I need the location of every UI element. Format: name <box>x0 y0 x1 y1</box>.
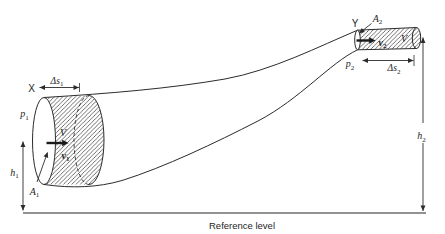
narrow-pipe-hatched-body <box>358 28 421 50</box>
x-section-label: X <box>28 83 35 94</box>
diagram-canvas: X Δs1 p1 V v1 h1 A1 Y A2 v2 V p2 Δs2 h2 … <box>0 0 445 234</box>
pipe-inlet-face <box>33 98 56 185</box>
bernoulli-pipe-diagram: X Δs1 p1 V v1 h1 A1 Y A2 v2 V p2 Δs2 h2 … <box>0 0 445 234</box>
y-section-label: Y <box>352 18 359 29</box>
reference-level-label: Reference level <box>209 220 275 231</box>
